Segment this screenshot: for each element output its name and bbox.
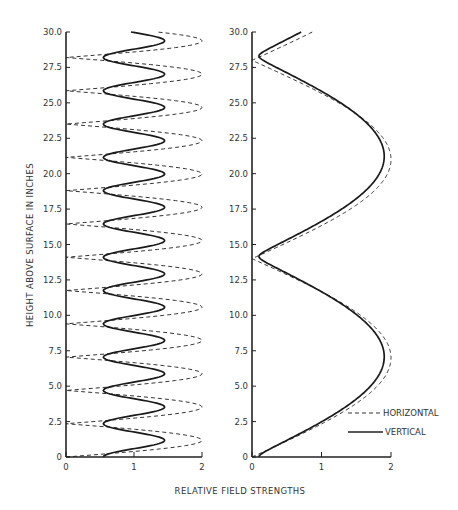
y-tick-label: 0 — [243, 452, 248, 462]
y-tick-label: 5.0 — [234, 381, 248, 391]
y-tick-label: 2.5 — [48, 417, 62, 427]
y-tick-label: 22.5 — [229, 133, 248, 143]
y-tick-label: 12.5 — [229, 275, 248, 285]
y-tick-label: 15.0 — [43, 240, 62, 250]
y-tick-label: 10.0 — [43, 310, 62, 320]
y-axis-title: HEIGHT ABOVE SURFACE IN INCHES — [25, 163, 35, 327]
y-tick-label: 25.0 — [43, 98, 62, 108]
y-tick-label: 15.0 — [229, 240, 248, 250]
right-panel: 02.55.07.510.012.515.017.520.022.525.027… — [229, 27, 394, 472]
y-tick-label: 30.0 — [229, 27, 248, 37]
left-panel: 02.55.07.510.012.515.017.520.022.525.027… — [43, 27, 205, 472]
right-curves — [252, 32, 391, 457]
y-tick-label: 20.0 — [229, 169, 248, 179]
y-tick-label: 25.0 — [229, 98, 248, 108]
y-tick-label: 30.0 — [43, 27, 62, 37]
y-tick-label: 7.5 — [48, 346, 62, 356]
y-tick-label: 2.5 — [234, 417, 248, 427]
left-horizontal-curve — [66, 32, 202, 457]
x-tick-label: 0 — [249, 462, 254, 472]
x-tick-label: 2 — [199, 462, 204, 472]
x-tick-label: 2 — [388, 462, 393, 472]
legend-vertical-label: VERTICAL — [385, 427, 426, 437]
field-strength-chart: 02.55.07.510.012.515.017.520.022.525.027… — [0, 0, 458, 510]
y-tick-label: 20.0 — [43, 169, 62, 179]
y-tick-label: 27.5 — [43, 62, 62, 72]
x-tick-label: 1 — [131, 462, 136, 472]
y-tick-label: 12.5 — [43, 275, 62, 285]
left-curves — [66, 32, 202, 457]
y-tick-label: 5.0 — [48, 381, 62, 391]
x-axis-title: RELATIVE FIELD STRENGTHS — [175, 486, 306, 496]
legend-horizontal-label: HORIZONTAL — [383, 408, 439, 418]
y-tick-label: 17.5 — [43, 204, 62, 214]
left-vertical-curve — [103, 32, 164, 457]
left-x-ticks: 012 — [63, 452, 204, 472]
legend: HORIZONTAL VERTICAL — [348, 408, 439, 437]
right-x-ticks: 012 — [249, 452, 393, 472]
x-tick-label: 1 — [319, 462, 324, 472]
y-tick-label: 17.5 — [229, 204, 248, 214]
y-tick-label: 0 — [57, 452, 62, 462]
y-tick-label: 10.0 — [229, 310, 248, 320]
y-tick-label: 27.5 — [229, 62, 248, 72]
y-tick-label: 7.5 — [234, 346, 248, 356]
right-horizontal-curve — [252, 32, 391, 457]
y-tick-label: 22.5 — [43, 133, 62, 143]
x-tick-label: 0 — [63, 462, 68, 472]
right-vertical-curve — [259, 32, 384, 457]
